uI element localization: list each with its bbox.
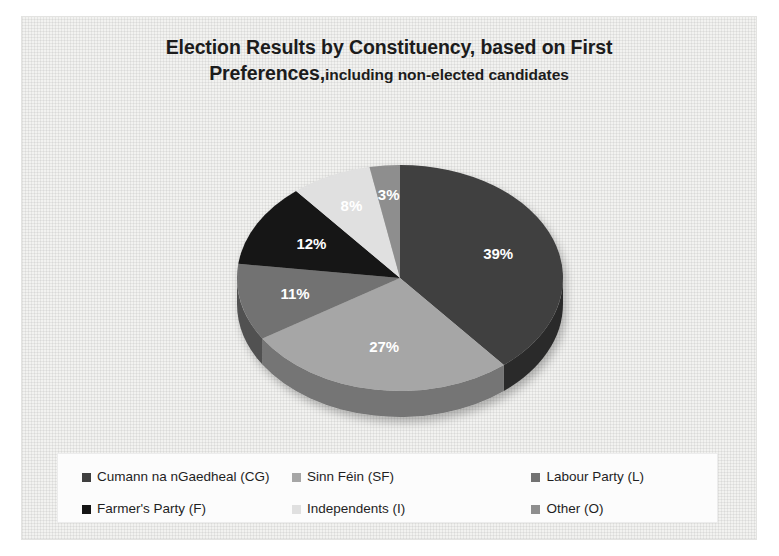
pie-chart-area: 39%27%11%12%8%3% (22, 135, 756, 445)
chart-subtitle: including non-elected candidates (325, 66, 569, 83)
legend-swatch-icon (82, 505, 91, 514)
pie-slice-label: 3% (378, 186, 400, 203)
legend-item-sinn-fein[interactable]: Sinn Féin (SF) (292, 470, 531, 484)
chart-title-second-line: Preferences,including non-elected candid… (22, 61, 756, 87)
pie-slice-label: 27% (369, 338, 399, 355)
legend-row: Farmer's Party (F) Independents (I) Othe… (82, 497, 717, 521)
pie-slices (237, 165, 563, 391)
pie-slice-label: 11% (280, 285, 309, 302)
legend-row: Cumann na nGaedheal (CG) Sinn Féin (SF) … (82, 465, 717, 489)
legend-swatch-icon (531, 505, 540, 514)
legend-item-farmers-party[interactable]: Farmer's Party (F) (82, 502, 292, 516)
chart-title: Election Results by Constituency, based … (22, 35, 756, 87)
pie-slice-label: 8% (341, 197, 363, 214)
legend-label: Sinn Féin (SF) (307, 470, 394, 484)
legend-swatch-icon (82, 473, 91, 482)
legend-item-other[interactable]: Other (O) (531, 502, 717, 516)
chart-legend: Cumann na nGaedheal (CG) Sinn Féin (SF) … (58, 454, 717, 522)
legend-item-independents[interactable]: Independents (I) (292, 502, 531, 516)
legend-item-labour-party[interactable]: Labour Party (L) (531, 470, 717, 484)
legend-label: Independents (I) (307, 502, 405, 516)
legend-label: Farmer's Party (F) (97, 502, 206, 516)
pie-chart: 39%27%11%12%8%3% (200, 135, 600, 445)
chart-page: Election Results by Constituency, based … (0, 0, 779, 556)
legend-label: Cumann na nGaedheal (CG) (97, 470, 270, 484)
legend-swatch-icon (292, 473, 301, 482)
legend-swatch-icon (531, 473, 540, 482)
chart-title-main: Election Results by Constituency, based … (22, 35, 756, 61)
chart-title-main-continued: Preferences, (209, 62, 325, 84)
legend-item-cumann-na-ngaedheal[interactable]: Cumann na nGaedheal (CG) (82, 470, 292, 484)
legend-swatch-icon (292, 505, 301, 514)
pie-slice-label: 12% (296, 235, 326, 252)
chart-frame: Election Results by Constituency, based … (22, 17, 756, 539)
pie-slice-label: 39% (483, 245, 513, 262)
legend-label: Other (O) (546, 502, 603, 516)
legend-label: Labour Party (L) (546, 470, 644, 484)
